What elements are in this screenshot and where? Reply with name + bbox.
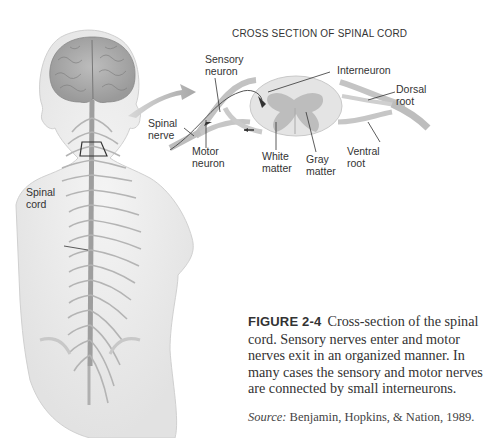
figure-2-4: CROSS SECTION OF SPINAL CORD Sensory neu… [0,0,487,438]
label-line: neuron [192,157,225,169]
label-line: White [262,150,292,162]
label-line: Spinal [148,117,177,129]
label-line: matter [262,162,292,174]
label-line: root [396,95,426,107]
figure-number: FIGURE 2-4 [248,314,322,329]
label-ventral-root: Ventral root [347,145,380,169]
label-motor-neuron: Motor neuron [192,145,225,169]
label-line: nerve [148,129,177,141]
label-line: Motor [192,145,225,157]
label-line: matter [306,165,336,177]
label-white-matter: White matter [262,150,292,174]
source-label: Source: [248,410,286,424]
figure-caption: FIGURE 2-4Cross-section of the spinal co… [248,313,484,397]
label-line: root [347,157,380,169]
label-spinal-cord: Spinal cord [26,186,55,210]
spinal-cord-cross-section [170,76,428,150]
label-line: Spinal [26,186,55,198]
label-interneuron: Interneuron [337,64,391,76]
source-text: Benjamin, Hopkins, & Nation, 1989. [286,410,474,424]
label-sensory-neuron: Sensory neuron [205,53,244,77]
label-line: Sensory [205,53,244,65]
label-line: Ventral [347,145,380,157]
label-line: neuron [205,65,244,77]
label-dorsal-root: Dorsal root [396,83,426,107]
label-line: Dorsal [396,83,426,95]
label-line: cord [26,198,55,210]
brain [50,37,135,103]
label-spinal-nerve: Spinal nerve [148,117,177,141]
label-gray-matter: Gray matter [306,153,336,177]
label-line: Gray [306,153,336,165]
diagram-title: CROSS SECTION OF SPINAL CORD [232,28,407,39]
figure-source: Source: Benjamin, Hopkins, & Nation, 198… [248,410,474,425]
